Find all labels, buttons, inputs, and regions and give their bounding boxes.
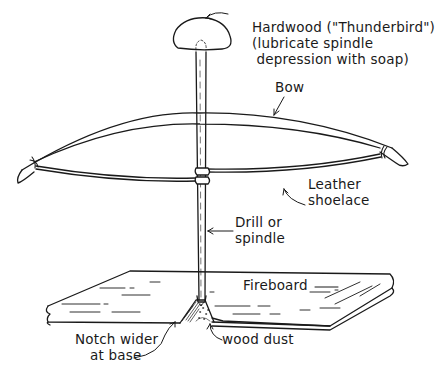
- shoelace-label-line1: Leather: [308, 177, 361, 192]
- bow-label: Bow: [275, 80, 304, 95]
- spindle-label-line1: Drill or: [235, 215, 282, 230]
- hardwood-cap-shape: [173, 18, 231, 50]
- hardwood-note-line2: depression with soap): [252, 52, 409, 67]
- fireboard-label: Fireboard: [243, 278, 308, 293]
- hardwood-label: Hardwood ("Thunderbird"): [252, 20, 435, 35]
- spindle-label-line2: spindle: [235, 231, 285, 246]
- notch-label-line1: Notch wider: [75, 332, 158, 347]
- notch-label-line2: at base: [90, 348, 141, 363]
- hardwood-note-line1: (lubricate spindle: [252, 36, 373, 51]
- shoelace-label-line2: shoelace: [308, 193, 370, 208]
- bow-drill-diagram: Hardwood ("Thunderbird") (lubricate spin…: [0, 0, 445, 372]
- wood-dust-label: wood dust: [222, 332, 294, 347]
- fireboard-shape: [46, 271, 393, 330]
